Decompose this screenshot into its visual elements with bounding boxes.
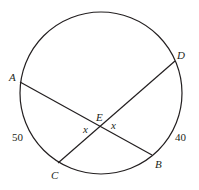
circle [20, 12, 182, 174]
arc-label-db: 40 [175, 131, 187, 143]
chord-cd [58, 61, 175, 163]
chord-ab [20, 82, 152, 155]
point-label-e: E [95, 111, 103, 123]
arc-label-ac: 50 [12, 131, 24, 143]
angle-label-left: x [82, 123, 88, 135]
point-label-d: D [176, 49, 185, 61]
point-label-a: A [8, 71, 16, 83]
point-label-b: B [155, 158, 162, 170]
circle-chords-diagram: A D B C E x x 50 40 [0, 0, 199, 190]
angle-label-right: x [110, 119, 116, 131]
point-label-c: C [51, 169, 59, 181]
